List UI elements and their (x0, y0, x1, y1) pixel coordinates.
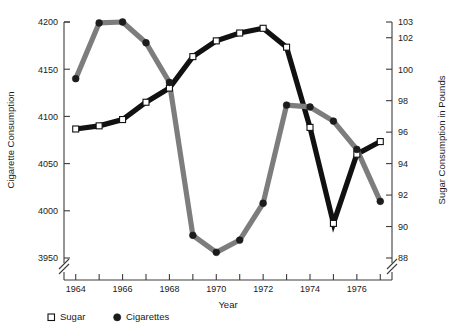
data-point-cigarettes (236, 237, 243, 244)
x-axis-tick-label: 1968 (159, 284, 179, 294)
left-axis: 395040004050410041504200 (38, 17, 70, 280)
x-axis-tick-label: 1972 (253, 284, 273, 294)
data-point-sugar (330, 220, 336, 226)
series-layer (72, 19, 383, 256)
data-point-cigarettes (166, 79, 173, 86)
right-axis-tick-label: 100 (398, 65, 413, 75)
legend-marker-cigarettes (114, 314, 121, 321)
right-axis-tick-label: 94 (398, 159, 408, 169)
line-chart: 395040004050410041504200 889092949698100… (0, 0, 456, 334)
chart-container: 395040004050410041504200 889092949698100… (0, 0, 456, 334)
right-axis-tick-label: 92 (398, 190, 408, 200)
data-point-cigarettes (330, 118, 337, 125)
legend-marker-sugar (48, 314, 55, 321)
data-point-cigarettes (189, 232, 196, 239)
data-point-sugar (143, 99, 149, 105)
x-axis-tick-label: 1974 (300, 284, 320, 294)
legend-label-cigarettes: Cigarettes (126, 311, 170, 322)
right-axis-tick-label: 90 (398, 222, 408, 232)
chart-legend: SugarCigarettes (48, 311, 170, 322)
right-axis-tick-label: 98 (398, 96, 408, 106)
right-axis: 889092949698100102103 (386, 17, 413, 280)
left-axis-tick-label: 3950 (38, 253, 58, 263)
left-axis-tick-label: 4150 (38, 65, 58, 75)
data-point-sugar (377, 139, 383, 145)
x-axis-tick-label: 1976 (347, 284, 367, 294)
data-point-sugar (260, 25, 266, 31)
right-axis-title: Sugar Consumption in Pounds (436, 75, 447, 204)
data-point-sugar (237, 30, 243, 36)
x-axis-tick-label: 1970 (206, 284, 226, 294)
data-point-cigarettes (213, 249, 220, 256)
data-point-cigarettes (353, 146, 360, 153)
left-axis-tick-label: 4050 (38, 159, 58, 169)
data-point-cigarettes (260, 200, 267, 207)
data-point-cigarettes (283, 102, 290, 109)
right-axis-tick-label: 102 (398, 33, 413, 43)
data-point-sugar (284, 44, 290, 50)
data-point-cigarettes (96, 20, 103, 27)
data-point-sugar (213, 38, 219, 44)
data-point-sugar (307, 124, 313, 130)
data-point-sugar (73, 126, 79, 132)
x-axis-tick-label: 1964 (66, 284, 86, 294)
data-point-cigarettes (72, 75, 79, 82)
data-point-cigarettes (307, 104, 314, 111)
left-axis-tick-label: 4200 (38, 17, 58, 27)
data-point-cigarettes (119, 19, 126, 26)
right-axis-tick-label: 103 (398, 17, 413, 27)
data-point-cigarettes (143, 39, 150, 46)
x-axis-title: Year (218, 299, 237, 310)
data-point-sugar (96, 123, 102, 129)
x-axis: 1964196619681970197219741976 (64, 274, 392, 294)
data-point-sugar (190, 54, 196, 60)
left-axis-tick-label: 4100 (38, 112, 58, 122)
data-point-sugar (120, 117, 126, 123)
left-axis-tick-label: 4000 (38, 206, 58, 216)
left-axis-title: Cigarette Consumption (5, 91, 16, 188)
x-axis-tick-label: 1966 (113, 284, 133, 294)
right-axis-tick-label: 88 (398, 253, 408, 263)
legend-label-sugar: Sugar (60, 311, 85, 322)
right-axis-tick-label: 96 (398, 127, 408, 137)
data-point-cigarettes (377, 198, 384, 205)
